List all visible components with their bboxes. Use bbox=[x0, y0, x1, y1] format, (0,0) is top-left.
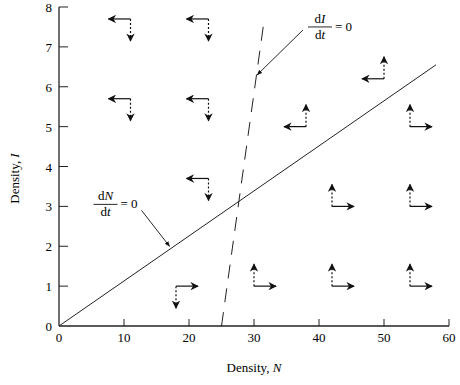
x-tick-label: 40 bbox=[313, 330, 326, 345]
y-tick-label: 4 bbox=[46, 160, 53, 175]
svg-text:dt: dt bbox=[315, 27, 326, 42]
pointer-arrow-icon bbox=[142, 210, 170, 246]
phase-plane-chart: 0102030405060012345678 dNdt= 0dIdt= 0 De… bbox=[0, 0, 460, 385]
svg-text:dI: dI bbox=[315, 11, 327, 26]
axis-labels: Density, NDensity, I bbox=[7, 153, 283, 375]
x-tick-label: 0 bbox=[56, 330, 63, 345]
direction-arrow-pair bbox=[187, 99, 209, 121]
dI-dt-label: dIdt= 0 bbox=[257, 11, 352, 75]
y-tick-label: 5 bbox=[46, 120, 53, 135]
y-axis-label: Density, I bbox=[7, 153, 22, 204]
dI-dt-isocline bbox=[222, 23, 264, 326]
svg-text:dN: dN bbox=[98, 188, 115, 203]
direction-arrow-pair bbox=[410, 105, 432, 127]
x-tick-label: 30 bbox=[248, 330, 261, 345]
y-tick-label: 2 bbox=[46, 239, 53, 254]
annotations: dNdt= 0dIdt= 0 bbox=[94, 11, 353, 246]
y-tick-label: 8 bbox=[46, 0, 53, 15]
x-tick-label: 20 bbox=[183, 330, 196, 345]
direction-arrow-pair bbox=[410, 184, 432, 206]
direction-arrow-pair bbox=[187, 178, 209, 200]
y-tick-label: 0 bbox=[46, 319, 53, 334]
isoclines bbox=[59, 23, 436, 326]
dN-dt-isocline bbox=[59, 65, 436, 326]
direction-arrow-pair bbox=[410, 264, 432, 286]
direction-arrow-pair bbox=[109, 19, 131, 41]
dN-dt-label: dNdt= 0 bbox=[94, 188, 170, 246]
direction-arrow-pair bbox=[362, 57, 384, 79]
direction-arrow-pair bbox=[109, 99, 131, 121]
direction-arrow-pair bbox=[176, 286, 198, 308]
pointer-arrow-icon bbox=[257, 30, 303, 75]
y-tick-label: 6 bbox=[46, 80, 53, 95]
x-tick-label: 50 bbox=[378, 330, 391, 345]
y-tick-label: 7 bbox=[46, 40, 53, 55]
svg-text:= 0: = 0 bbox=[121, 196, 138, 211]
x-axis-label: Density, N bbox=[227, 360, 283, 375]
y-tick-label: 3 bbox=[46, 199, 53, 214]
direction-arrow-pair bbox=[332, 264, 354, 286]
direction-arrow-pair bbox=[284, 105, 306, 127]
direction-arrow-pair bbox=[332, 184, 354, 206]
y-tick-label: 1 bbox=[46, 279, 53, 294]
svg-text:= 0: = 0 bbox=[335, 19, 352, 34]
svg-text:dt: dt bbox=[100, 204, 111, 219]
direction-arrow-pair bbox=[254, 264, 276, 286]
x-tick-label: 60 bbox=[443, 330, 456, 345]
x-tick-label: 10 bbox=[118, 330, 131, 345]
direction-arrow-pair bbox=[187, 19, 209, 41]
